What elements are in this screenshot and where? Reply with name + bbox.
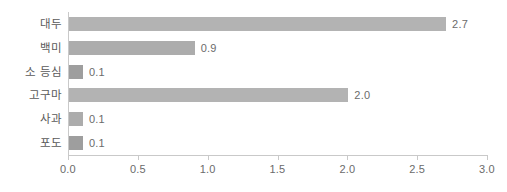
x-tick-mark-7 xyxy=(487,155,488,160)
bar-value-label-1: 2.7 xyxy=(452,17,468,31)
bar-3 xyxy=(69,65,83,79)
y-axis-line xyxy=(68,12,69,155)
bar-value-label-6: 0.1 xyxy=(89,136,105,150)
x-tick-mark-4 xyxy=(278,155,279,160)
bar-6 xyxy=(69,136,83,150)
x-tick-mark-1 xyxy=(68,155,69,160)
x-tick-mark-5 xyxy=(347,155,348,160)
bar-value-label-2: 0.9 xyxy=(201,41,217,55)
category-label-1: 대두 xyxy=(0,17,62,31)
bar-4 xyxy=(69,88,348,102)
bar-1 xyxy=(69,17,446,31)
bar-value-label-5: 0.1 xyxy=(89,112,105,126)
x-tick-label-3: 1.0 xyxy=(200,163,216,176)
bar-value-label-3: 0.1 xyxy=(89,65,105,79)
horizontal-bar-chart: 대두백미소 등심고구마사과포도 2.70.90.12.00.10.1 0.00.… xyxy=(0,0,507,192)
x-tick-mark-3 xyxy=(208,155,209,160)
x-tick-label-1: 0.0 xyxy=(60,163,76,176)
x-tick-label-6: 2.5 xyxy=(409,163,425,176)
category-label-4: 고구마 xyxy=(0,88,62,102)
x-tick-label-7: 3.0 xyxy=(479,163,495,176)
x-tick-label-2: 0.5 xyxy=(130,163,146,176)
bar-5 xyxy=(69,112,83,126)
x-tick-mark-2 xyxy=(138,155,139,160)
x-tick-label-4: 1.5 xyxy=(270,163,286,176)
category-label-5: 사과 xyxy=(0,112,62,126)
x-tick-mark-6 xyxy=(417,155,418,160)
bar-2 xyxy=(69,41,195,55)
category-label-2: 백미 xyxy=(0,41,62,55)
bar-value-label-4: 2.0 xyxy=(354,88,370,102)
category-label-3: 소 등심 xyxy=(0,65,62,79)
x-tick-label-5: 2.0 xyxy=(339,163,355,176)
category-label-6: 포도 xyxy=(0,136,62,150)
